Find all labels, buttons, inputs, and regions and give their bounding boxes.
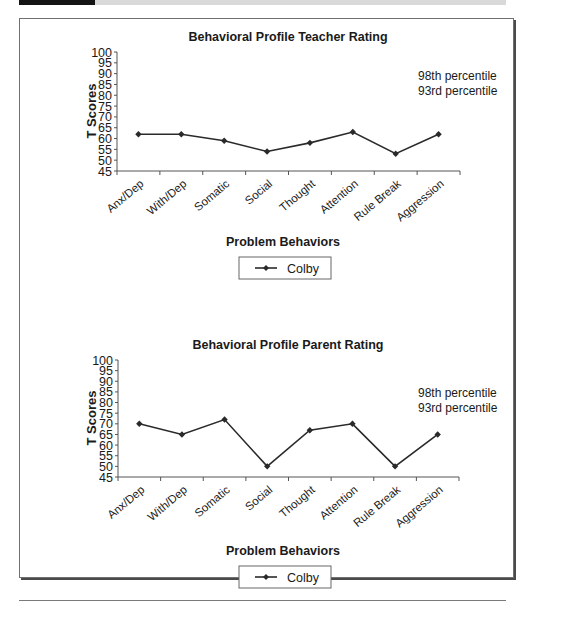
data-point-marker	[179, 431, 185, 437]
data-point-marker	[435, 131, 441, 137]
teacher-rating-chart: Behavioral Profile Teacher RatingT Score…	[84, 30, 498, 279]
x-axis-label: Problem Behaviors	[226, 235, 340, 249]
chart-title: Behavioral Profile Teacher Rating	[188, 30, 387, 44]
x-tick-label: With/Dep	[145, 177, 189, 217]
x-tick-label: Somatic	[192, 177, 232, 213]
series-line	[138, 132, 438, 154]
percentile-annotation: 98th percentile	[418, 386, 497, 400]
x-tick-label: Aggression	[394, 177, 446, 223]
x-tick-label: Attention	[317, 483, 359, 521]
x-tick-label: Anx/Dep	[105, 483, 147, 521]
x-tick-label: Somatic	[192, 483, 232, 519]
x-tick-label: Attention	[318, 177, 360, 215]
x-tick-label: Thought	[277, 483, 318, 520]
data-point-marker	[135, 131, 141, 137]
x-tick-label: With/Dep	[145, 483, 189, 523]
y-tick-label: 45	[98, 165, 112, 179]
series-line	[139, 420, 437, 467]
data-point-marker	[221, 138, 227, 144]
percentile-annotation: 93rd percentile	[418, 84, 498, 98]
percentile-annotation: 98th percentile	[418, 69, 497, 83]
data-point-marker	[392, 150, 398, 156]
y-tick-label: 45	[99, 471, 113, 485]
data-point-marker	[350, 129, 356, 135]
legend-label: Colby	[287, 262, 320, 276]
x-tick-label: Aggression	[393, 483, 445, 529]
x-axis-label: Problem Behaviors	[226, 544, 340, 558]
x-tick-label: Thought	[277, 177, 318, 214]
data-point-marker	[264, 148, 270, 154]
legend-label: Colby	[287, 571, 320, 585]
percentile-annotation: 93rd percentile	[418, 401, 498, 415]
x-tick-label: Social	[243, 177, 275, 206]
chart-title: Behavioral Profile Parent Rating	[192, 338, 383, 352]
data-point-marker	[136, 421, 142, 427]
data-point-marker	[178, 131, 184, 137]
y-axis-label: T Scores	[84, 391, 99, 446]
charts-canvas: Behavioral Profile Teacher RatingT Score…	[0, 0, 577, 623]
x-tick-label: Anx/Dep	[104, 177, 146, 215]
x-tick-label: Social	[243, 483, 275, 512]
data-point-marker	[307, 140, 313, 146]
y-axis-label: T Scores	[84, 84, 99, 139]
parent-rating-chart: Behavioral Profile Parent RatingT Scores…	[84, 338, 498, 588]
